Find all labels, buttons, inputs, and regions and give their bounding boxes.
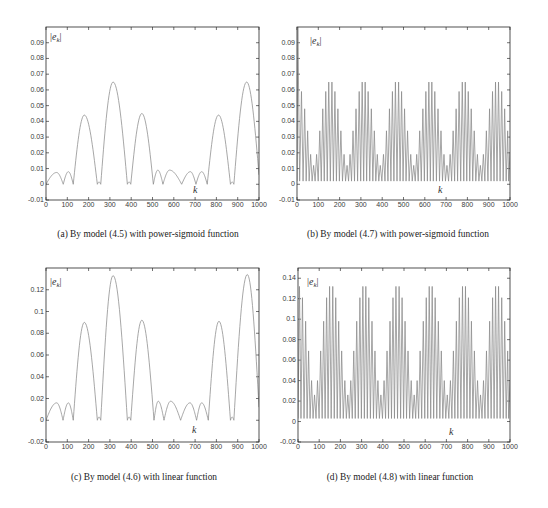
y-axis-label-a: |ek|	[50, 31, 62, 44]
x-tick-label: 1000	[502, 443, 518, 451]
x-tick-label: 700	[189, 201, 201, 209]
plot-area-d	[298, 268, 510, 442]
y-tick-label: 0.01	[281, 165, 295, 173]
y-tick-label: 0.07	[30, 70, 44, 78]
x-tick-label: 400	[377, 443, 389, 451]
y-tick-label: 0.14	[282, 274, 296, 282]
plot-area-a	[46, 27, 259, 200]
ylabel-subscript: k	[316, 40, 319, 48]
y-tick-label: 0.02	[30, 395, 44, 403]
x-tick-label: 300	[104, 443, 116, 451]
y-tick-label: 0.02	[282, 397, 296, 405]
x-tick-label: 1000	[502, 201, 518, 209]
y-tick-label: 0.08	[30, 54, 44, 62]
y-tick-label: 0.12	[282, 295, 296, 303]
figure: |ek| k (a) By model (4.5) with power-sig…	[0, 0, 548, 508]
y-tick-label: 0.06	[30, 351, 44, 359]
x-tick-label: 200	[334, 201, 346, 209]
x-tick-label: 900	[232, 201, 244, 209]
y-tick-label: 0.07	[281, 70, 295, 78]
x-tick-label: 600	[168, 443, 180, 451]
x-tick-label: 0	[44, 201, 48, 209]
x-tick-label: 100	[61, 201, 73, 209]
ylabel-subscript: k	[56, 281, 59, 289]
x-tick-label: 300	[104, 201, 116, 209]
x-tick-label: 100	[312, 201, 324, 209]
error-curve	[297, 27, 510, 181]
x-tick-label: 500	[147, 201, 159, 209]
caption-b: (b) By model (4.7) with power-sigmoid fu…	[307, 228, 489, 240]
y-tick-label: 0	[292, 418, 296, 426]
error-curve	[46, 82, 259, 184]
x-tick-label: 500	[147, 443, 159, 451]
x-axis-label-c: k	[192, 424, 196, 436]
y-tick-label: 0.06	[282, 356, 296, 364]
y-tick-label: 0.04	[30, 373, 44, 381]
x-tick-label: 200	[335, 443, 347, 451]
y-tick-label: -0.01	[28, 196, 44, 204]
caption-c: (c) By model (4.6) with linear function	[71, 471, 217, 483]
x-axis-label-a: k	[193, 184, 197, 196]
x-tick-label: 200	[83, 201, 95, 209]
chart-svg	[46, 27, 259, 200]
y-tick-label: 0.04	[30, 117, 44, 125]
y-tick-label: 0.1	[34, 308, 44, 316]
x-tick-label: 400	[376, 201, 388, 209]
y-axis-label-d: |ek|	[307, 276, 319, 289]
error-curve	[46, 275, 259, 421]
y-tick-label: 0.12	[30, 286, 44, 294]
x-tick-label: 700	[189, 443, 201, 451]
y-tick-label: 0.03	[30, 133, 44, 141]
x-tick-label: 1000	[251, 201, 267, 209]
y-axis-label-b: |ek|	[310, 35, 322, 48]
x-tick-label: 0	[44, 443, 48, 451]
y-tick-label: 0.08	[30, 329, 44, 337]
axes-frame	[46, 268, 259, 442]
y-tick-label: 0.02	[30, 149, 44, 157]
y-tick-label: -0.01	[279, 196, 295, 204]
y-tick-label: 0.09	[30, 39, 44, 47]
chart-svg	[298, 268, 510, 442]
y-tick-label: 0	[291, 180, 295, 188]
plot-area-b	[297, 27, 510, 200]
x-tick-label: 100	[313, 443, 325, 451]
x-tick-label: 800	[462, 201, 474, 209]
y-tick-label: 0.09	[281, 39, 295, 47]
x-tick-label: 700	[440, 201, 452, 209]
y-tick-label: 0.06	[30, 86, 44, 94]
y-tick-label: 0.04	[282, 377, 296, 385]
x-tick-label: 900	[483, 201, 495, 209]
y-tick-label: 0.03	[281, 133, 295, 141]
x-tick-label: 0	[296, 443, 300, 451]
x-tick-label: 400	[125, 443, 137, 451]
chart-svg	[297, 27, 510, 200]
y-tick-label: -0.02	[28, 438, 44, 446]
x-tick-label: 200	[83, 443, 95, 451]
y-tick-label: 0.06	[281, 86, 295, 94]
x-tick-label: 600	[419, 201, 431, 209]
y-tick-label: 0.08	[282, 336, 296, 344]
y-tick-label: 0.01	[30, 165, 44, 173]
y-tick-label: 0.1	[286, 315, 296, 323]
x-tick-label: 700	[441, 443, 453, 451]
y-tick-label: -0.02	[280, 438, 296, 446]
x-tick-label: 600	[168, 201, 180, 209]
x-tick-label: 0	[295, 201, 299, 209]
y-tick-label: 0.05	[30, 102, 44, 110]
y-axis-label-c: |ek|	[50, 276, 62, 289]
y-tick-label: 0.08	[281, 54, 295, 62]
x-tick-label: 900	[232, 443, 244, 451]
plot-area-c	[46, 268, 259, 442]
x-tick-label: 400	[125, 201, 137, 209]
x-axis-label-b: k	[438, 184, 442, 196]
ylabel-subscript: k	[313, 281, 316, 289]
error-curve	[298, 286, 510, 418]
caption-d: (d) By model (4.8) with linear function	[327, 471, 474, 483]
x-tick-label: 1000	[251, 443, 267, 451]
y-tick-label: 0	[40, 416, 44, 424]
x-tick-label: 600	[419, 443, 431, 451]
x-tick-label: 800	[211, 443, 223, 451]
x-axis-label-d: k	[449, 426, 453, 438]
x-tick-label: 500	[398, 201, 410, 209]
y-tick-label: 0	[40, 180, 44, 188]
